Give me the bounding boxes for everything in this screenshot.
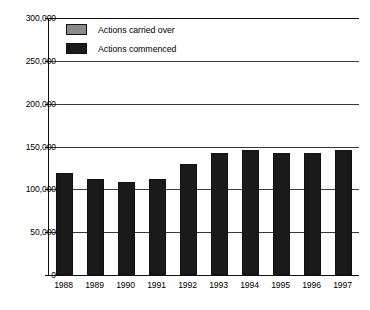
legend-label-commenced: Actions commenced bbox=[98, 44, 176, 54]
x-axis-tick-label: 1997 bbox=[323, 280, 363, 290]
gridline-300000 bbox=[49, 18, 359, 19]
y-axis-tick-label: 100,000 bbox=[0, 184, 56, 194]
y-axis-tick-label: 300,000 bbox=[0, 13, 56, 23]
bar-segment-commenced bbox=[180, 164, 197, 275]
bar-segment-commenced bbox=[56, 173, 73, 275]
legend-label-carried-over: Actions carried over bbox=[98, 25, 175, 35]
bar-segment-commenced bbox=[211, 153, 228, 276]
bar-segment-commenced bbox=[149, 179, 166, 275]
bar-segment-commenced bbox=[87, 179, 104, 275]
legend-swatch-commenced-icon bbox=[66, 43, 87, 54]
bar-segment-commenced bbox=[273, 153, 290, 276]
y-axis-tick-label: 150,000 bbox=[0, 142, 56, 152]
gridline-250000 bbox=[49, 61, 359, 62]
y-axis-tick-label: 250,000 bbox=[0, 56, 56, 66]
chart-legend: Actions carried over Actions commenced bbox=[66, 22, 176, 60]
bar-segment-commenced bbox=[242, 150, 259, 275]
bar-segment-commenced bbox=[304, 153, 321, 275]
legend-swatch-carried-over-icon bbox=[66, 24, 87, 35]
bar-segment-commenced bbox=[335, 150, 352, 275]
y-axis-tick-label: 0 bbox=[0, 270, 56, 280]
legend-item-commenced: Actions commenced bbox=[66, 41, 176, 56]
legend-item-carried-over: Actions carried over bbox=[66, 22, 176, 37]
y-axis-tick-label: 200,000 bbox=[0, 99, 56, 109]
bar-segment-commenced bbox=[118, 182, 135, 275]
gridline-200000 bbox=[49, 104, 359, 105]
stacked-bar-chart: 050,000100,000150,000200,000250,000300,0… bbox=[0, 0, 370, 310]
y-axis-tick-label: 50,000 bbox=[0, 227, 56, 237]
gridline-150000 bbox=[49, 147, 359, 148]
